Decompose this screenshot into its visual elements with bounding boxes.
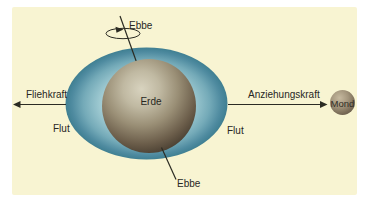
- label-erde: Erde: [140, 96, 162, 107]
- label-flut-right: Flut: [227, 125, 244, 136]
- label-fliehkraft: Fliehkraft: [26, 89, 67, 100]
- label-mond: Mond: [331, 98, 355, 109]
- tide-diagram: Ebbe Fliehkraft Flut Erde Anziehungskraf…: [0, 0, 372, 208]
- figure-tidal-forces: Ebbe Fliehkraft Flut Erde Anziehungskraf…: [0, 0, 372, 208]
- gravitational-force-arrow: [228, 101, 328, 108]
- label-ebbe-bottom: Ebbe: [177, 178, 201, 189]
- centrifugal-force-arrow: [13, 101, 66, 108]
- arrow-left-icon: [13, 101, 21, 108]
- label-ebbe-top: Ebbe: [129, 20, 153, 31]
- arrow-right-icon: [320, 101, 328, 108]
- label-flut-left: Flut: [53, 123, 70, 134]
- label-anziehungskraft: Anziehungskraft: [248, 89, 320, 100]
